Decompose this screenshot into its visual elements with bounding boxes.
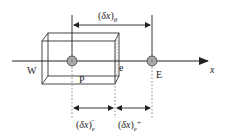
label-dx-e-minus: (δx)e− <box>76 117 95 133</box>
node-p-center <box>71 60 72 61</box>
label-e: E <box>156 69 162 80</box>
node-e-center <box>151 60 152 61</box>
box-back-face <box>48 33 119 76</box>
label-p: P <box>79 74 85 85</box>
box-edge <box>42 76 48 84</box>
control-volume-diagram: W P e E x (δx)θ (δx)e− (δx)e+ <box>0 0 228 137</box>
label-w: W <box>27 65 37 76</box>
label-dx-theta: (δx)θ <box>98 10 118 24</box>
label-dx-e-plus: (δx)e+ <box>118 119 141 133</box>
label-e-face: e <box>119 62 124 73</box>
box-edge <box>42 33 48 41</box>
label-x-axis: x <box>209 64 215 75</box>
